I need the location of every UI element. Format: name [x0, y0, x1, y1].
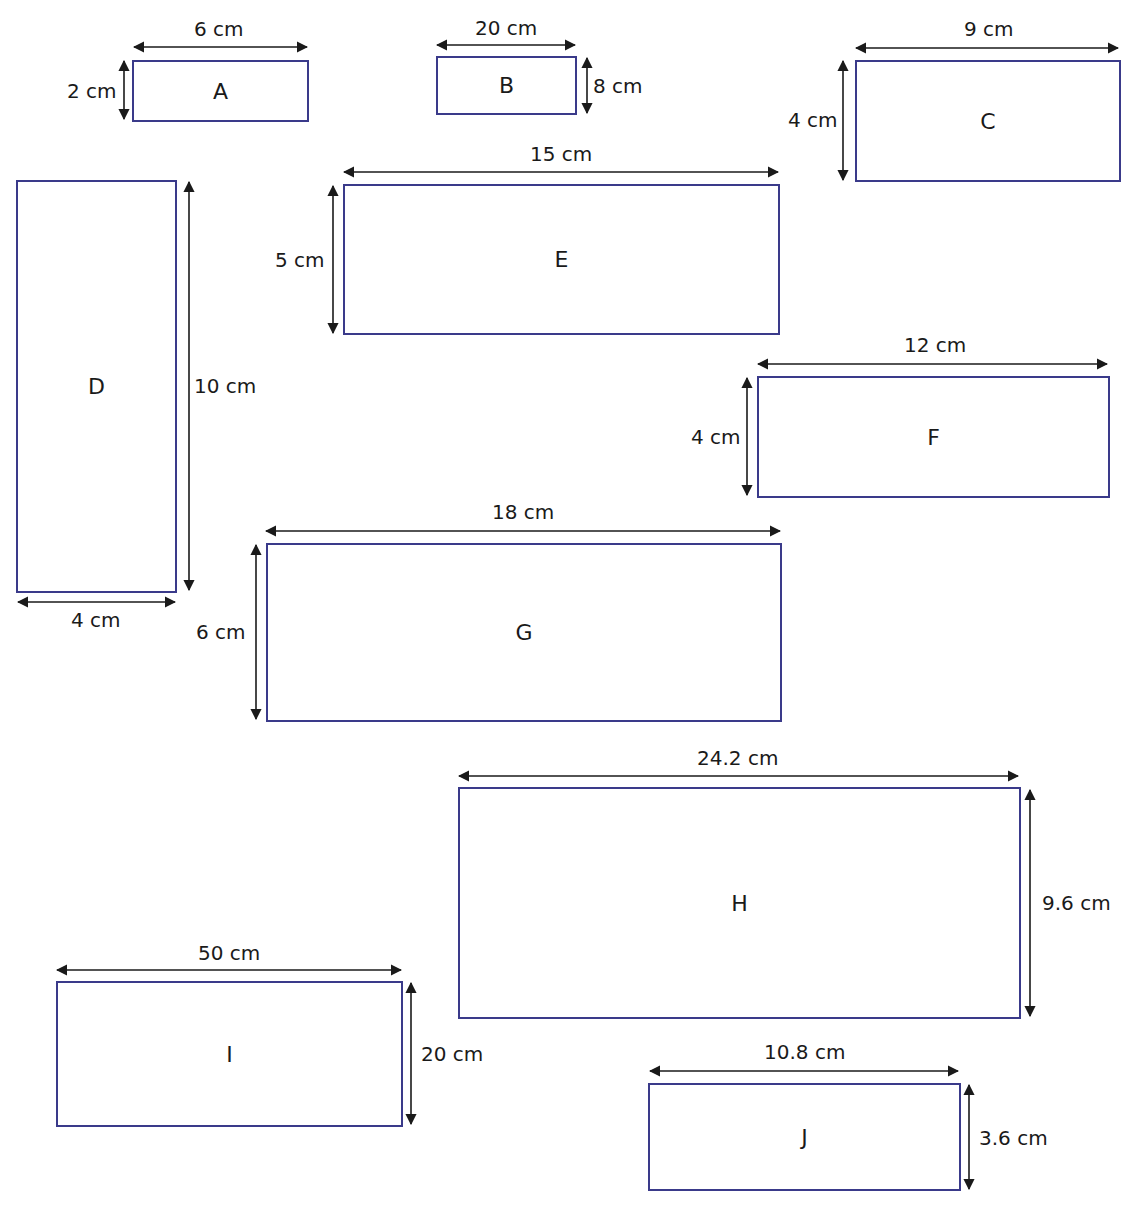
- width-label-j: 10.8 cm: [764, 1042, 845, 1062]
- rectangle-c: C: [855, 60, 1121, 182]
- width-label-g: 18 cm: [492, 502, 554, 522]
- height-label-i: 20 cm: [421, 1044, 483, 1064]
- height-label-j: 3.6 cm: [979, 1128, 1048, 1148]
- shape-label: J: [801, 1125, 808, 1150]
- width-label-a: 6 cm: [194, 19, 244, 39]
- width-label-b: 20 cm: [475, 18, 537, 38]
- rectangle-a: A: [132, 60, 309, 122]
- height-label-d: 10 cm: [194, 376, 256, 396]
- height-label-c: 4 cm: [788, 110, 838, 130]
- height-label-g: 6 cm: [196, 622, 246, 642]
- rectangle-j: J: [648, 1083, 961, 1191]
- width-label-f: 12 cm: [904, 335, 966, 355]
- rectangle-f: F: [757, 376, 1110, 498]
- width-label-e: 15 cm: [530, 144, 592, 164]
- shape-label: C: [980, 109, 995, 134]
- height-label-a: 2 cm: [67, 81, 117, 101]
- rectangle-d: D: [16, 180, 177, 593]
- rectangle-g: G: [266, 543, 782, 722]
- rectangle-i: I: [56, 981, 403, 1127]
- width-label-i: 50 cm: [198, 943, 260, 963]
- width-label-c: 9 cm: [964, 19, 1014, 39]
- height-label-b: 8 cm: [593, 76, 643, 96]
- shape-label: G: [515, 620, 532, 645]
- shape-label: D: [88, 374, 105, 399]
- width-label-h: 24.2 cm: [697, 748, 778, 768]
- shape-label: F: [927, 425, 940, 450]
- height-label-h: 9.6 cm: [1042, 893, 1111, 913]
- shape-label: A: [213, 79, 228, 104]
- height-label-f: 4 cm: [691, 427, 741, 447]
- rectangle-e: E: [343, 184, 780, 335]
- shape-label: I: [226, 1042, 233, 1067]
- shape-label: H: [731, 891, 748, 916]
- height-label-e: 5 cm: [275, 250, 325, 270]
- shape-label: B: [499, 73, 514, 98]
- rectangle-b: B: [436, 56, 577, 115]
- width-label-d: 4 cm: [71, 610, 121, 630]
- shape-label: E: [555, 247, 569, 272]
- rectangle-h: H: [458, 787, 1021, 1019]
